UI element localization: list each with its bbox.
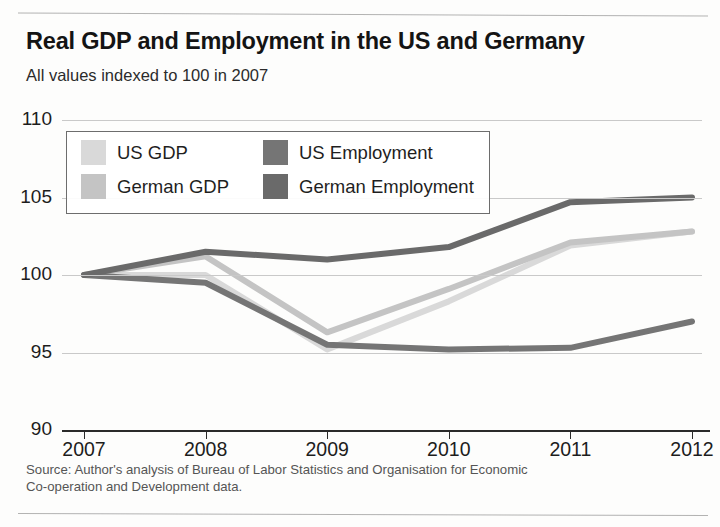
chart-subtitle: All values indexed to 100 in 2007 <box>26 66 268 85</box>
legend-item-us-gdp: US GDP <box>81 140 271 165</box>
gridline-100 <box>62 275 702 276</box>
legend-label-us-gdp: US GDP <box>117 142 188 164</box>
legend-item-german-gdp: German GDP <box>81 174 271 199</box>
source-note-line-2: Co-operation and Development data. <box>26 478 696 495</box>
legend-label-us-employment: US Employment <box>299 142 433 164</box>
source-note-line-1: Source: Author's analysis of Bureau of L… <box>26 461 696 478</box>
series-line-us-gdp <box>84 232 692 350</box>
y-tick-label-110: 110 <box>22 108 52 130</box>
source-note: Source: Author's analysis of Bureau of L… <box>26 461 696 496</box>
chart-figure: Real GDP and Employment in the US and Ge… <box>0 0 720 527</box>
legend-item-german-employment: German Employment <box>263 174 483 199</box>
gridline-110 <box>62 120 702 121</box>
x-tick-label-2009: 2009 <box>305 438 348 461</box>
legend-label-german-employment: German Employment <box>299 176 474 198</box>
y-tick-label-100: 100 <box>20 263 52 285</box>
legend-swatch-german-gdp <box>81 174 106 199</box>
gridline-95 <box>62 353 702 354</box>
x-tick-label-2007: 2007 <box>62 438 105 461</box>
gridline-90 <box>62 430 710 432</box>
x-tick-label-2008: 2008 <box>184 438 227 461</box>
x-tick-label-2011: 2011 <box>549 438 591 461</box>
x-tick-label-2010: 2010 <box>427 438 470 461</box>
legend-label-german-gdp: German GDP <box>117 176 229 198</box>
legend-swatch-us-employment <box>263 140 288 165</box>
legend-swatch-german-employment <box>263 174 288 199</box>
legend-item-us-employment: US Employment <box>263 140 483 165</box>
x-tick-label-2012: 2012 <box>670 438 713 461</box>
y-tick-label-90: 90 <box>31 418 52 440</box>
page-rule-top <box>18 12 708 16</box>
y-tick-label-95: 95 <box>31 341 52 363</box>
chart-legend: US GDP US Employment German GDP German E… <box>66 131 490 214</box>
page-rule-bottom <box>18 513 708 516</box>
y-axis-labels: 9095100105110 <box>0 0 56 527</box>
legend-swatch-us-gdp <box>81 140 106 165</box>
y-tick-label-105: 105 <box>20 186 52 208</box>
chart-title: Real GDP and Employment in the US and Ge… <box>26 28 585 55</box>
